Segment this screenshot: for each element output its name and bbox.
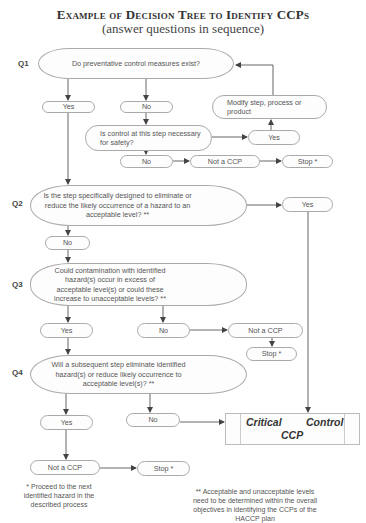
ccp-word-critical: Critical: [246, 416, 282, 428]
q2-question: Is the step specifically designed to eli…: [30, 185, 247, 226]
footnote-double-asterisk: ** Acceptable and unacceptable levels ne…: [190, 487, 320, 523]
footnote-single-asterisk: * Proceed to the next identified hazard …: [18, 482, 100, 509]
q2-yes-node: Yes: [282, 197, 333, 212]
q3-stop-node: Stop *: [246, 347, 297, 361]
q2-label: Q2: [12, 199, 23, 208]
q3-label: Q3: [12, 280, 23, 289]
q3-not-ccp-node: Not a CCP: [228, 323, 303, 338]
q1-label: Q1: [18, 59, 29, 68]
q1-no-node: No: [120, 101, 173, 113]
q2-no-node: No: [45, 236, 90, 250]
control-necessary-question: Is control at this step necessary for sa…: [85, 125, 212, 151]
control-yes-node: Yes: [248, 130, 300, 145]
control-no-node: No: [120, 155, 173, 168]
q4-not-ccp-node: Not a CCP: [30, 460, 100, 475]
q3-yes-node: Yes: [40, 323, 93, 338]
modify-step-node: Modify step, process or product: [212, 95, 327, 119]
control-stop-node: Stop *: [282, 155, 333, 168]
control-not-ccp-node: Not a CCP: [190, 155, 260, 168]
q4-yes-node: Yes: [40, 415, 93, 430]
q4-stop-node: Stop *: [137, 461, 190, 476]
q4-label: Q4: [12, 368, 23, 377]
q3-question: Could contamination with identified haza…: [30, 263, 247, 306]
q1-question: Do preventative control measures exist?: [38, 48, 234, 79]
q4-question: Will a subsequent step eliminate identif…: [30, 355, 247, 394]
q4-no-node: No: [126, 413, 180, 427]
q1-yes-node: Yes: [42, 101, 95, 113]
ccp-word-ccp: CCP: [281, 429, 303, 441]
q3-no-node: No: [137, 323, 190, 338]
ccp-word-control: Control: [306, 416, 343, 428]
critical-control-point-box: Critical Control CCP: [225, 413, 360, 445]
